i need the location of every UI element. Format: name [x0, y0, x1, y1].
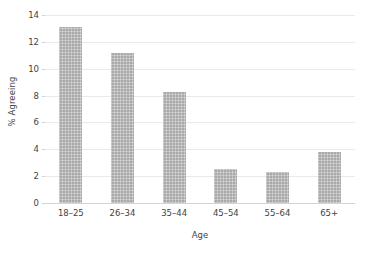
bar — [111, 53, 134, 203]
y-tick-label: 0 — [34, 198, 39, 208]
y-tick-label: 12 — [28, 37, 39, 47]
x-tick-label: 45–54 — [213, 208, 239, 218]
y-tick-mark — [42, 203, 45, 204]
bar — [266, 172, 289, 203]
y-tick-label: 2 — [34, 171, 39, 181]
x-tick-label: 55–64 — [265, 208, 291, 218]
plot-area: 14121086420 — [45, 15, 355, 203]
y-axis-title: % Agreeing — [4, 0, 20, 203]
bars-group — [45, 15, 355, 203]
y-tick-label: 8 — [34, 91, 39, 101]
y-tick-label: 4 — [34, 144, 39, 154]
bar — [214, 169, 237, 203]
gridline — [45, 203, 355, 204]
x-tick-label: 26–34 — [110, 208, 136, 218]
bar — [163, 92, 186, 203]
x-tick-label: 65+ — [320, 208, 338, 218]
y-tick-label: 6 — [34, 117, 39, 127]
x-tick-label: 35–44 — [161, 208, 187, 218]
y-tick-label: 10 — [28, 64, 39, 74]
bar — [318, 152, 341, 203]
y-tick-label: 14 — [28, 10, 39, 20]
bar — [59, 27, 82, 203]
bar-chart-figure: % Agreeing 14121086420 18–2526–3435–4445… — [0, 0, 369, 253]
x-axis-title: Age — [45, 230, 355, 240]
x-tick-label: 18–25 — [58, 208, 84, 218]
